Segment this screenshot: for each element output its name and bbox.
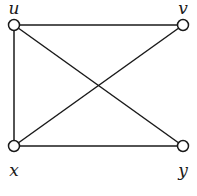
edges: [14, 25, 183, 146]
label-u: u: [9, 0, 20, 18]
label-x: x: [9, 160, 19, 180]
label-y: y: [177, 160, 188, 180]
label-v: v: [178, 0, 188, 18]
node-v: [178, 20, 189, 31]
node-x: [9, 141, 20, 152]
node-u: [9, 20, 20, 31]
node-y: [178, 141, 189, 152]
graph-diagram: u v x y: [0, 0, 197, 196]
labels: u v x y: [9, 0, 189, 180]
